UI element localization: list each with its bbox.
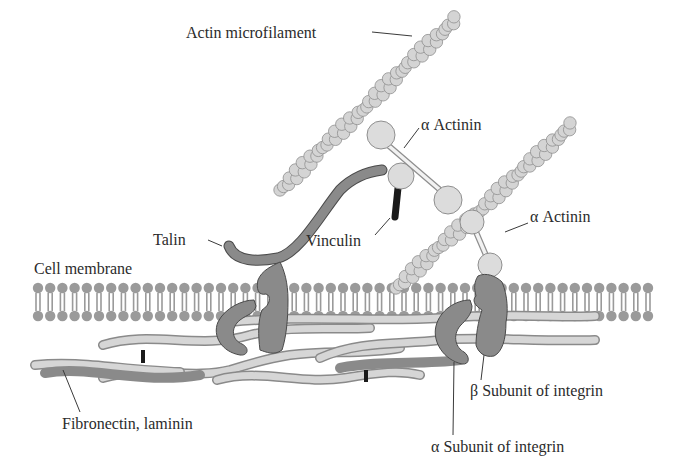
- lipid: [155, 283, 165, 321]
- adhesion-diagram: Actin microfilament α Actinin α Actinin …: [0, 0, 694, 468]
- lipid: [179, 283, 189, 321]
- integrin-right-alpha: [435, 300, 472, 364]
- lipid: [204, 283, 214, 321]
- ecm-fibers: [35, 316, 595, 382]
- vinculin: [388, 163, 414, 217]
- lipid: [94, 283, 104, 321]
- fiber-right-lower: [340, 360, 460, 368]
- lipid: [167, 283, 177, 321]
- crosslink-left: [141, 350, 145, 363]
- lipid: [118, 283, 128, 321]
- label-talin: Talin: [153, 231, 186, 248]
- lipid: [69, 283, 79, 321]
- lipid: [45, 283, 55, 321]
- fiber-bottom-middle: [217, 372, 420, 380]
- lipid: [82, 283, 92, 321]
- integrin-left-beta: [257, 262, 288, 353]
- label-beta-subunit: β Subunit of integrin: [470, 382, 603, 400]
- label-cell-membrane: Cell membrane: [34, 260, 132, 277]
- label-alpha-actinin-lower: α Actinin: [530, 208, 590, 225]
- lipid: [130, 283, 140, 321]
- lipid: [143, 283, 153, 321]
- lipid: [618, 283, 628, 321]
- lipid: [33, 283, 43, 321]
- label-vinculin: Vinculin: [306, 232, 361, 249]
- alpha-actinin-lower: [460, 210, 502, 277]
- crosslink-right: [364, 370, 368, 382]
- label-alpha-actinin-upper: α Actinin: [421, 116, 481, 133]
- lipid: [606, 283, 616, 321]
- label-fibronectin-laminin: Fibronectin, laminin: [62, 415, 193, 432]
- label-actin-microfilament: Actin microfilament: [186, 24, 317, 41]
- integrin-left: [216, 262, 288, 355]
- lipid: [57, 283, 67, 321]
- lipid: [191, 283, 201, 321]
- lipid: [106, 283, 116, 321]
- lipid: [643, 283, 653, 321]
- lipid: [631, 283, 641, 321]
- label-alpha-subunit: α Subunit of integrin: [431, 438, 564, 456]
